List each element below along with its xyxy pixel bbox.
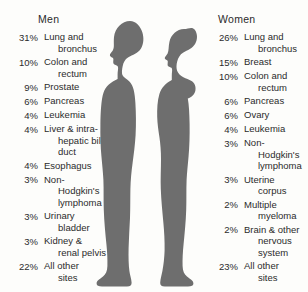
stat-site-line: Prostate: [44, 81, 79, 92]
stat-site-label: Ovary: [238, 109, 308, 121]
stat-percent: 15%: [206, 56, 238, 68]
stat-percent: 22%: [2, 260, 38, 272]
stat-site-label: Breast: [238, 56, 308, 68]
stat-site-line: Uterine: [244, 174, 275, 185]
stat-site-line: Urinary: [44, 210, 75, 221]
stat-site-line: Multiple: [244, 199, 277, 210]
stat-site-label: Non-Hodgkin'slymphoma: [238, 137, 308, 172]
stat-percent: 3%: [2, 174, 38, 186]
stat-row: 26%Lung andbronchus: [206, 31, 308, 54]
stat-row: 2%Multiplemyeloma: [206, 199, 308, 222]
stat-percent: 6%: [206, 95, 238, 107]
stat-site-line: myeloma: [244, 210, 308, 222]
stat-site-line: Leukemia: [44, 109, 85, 120]
stat-site-line: nervous: [244, 235, 308, 247]
stat-site-line: Kidney &: [44, 235, 82, 246]
stat-percent: 2%: [206, 199, 238, 211]
stat-site-label: Leukemia: [238, 123, 308, 135]
stat-percent: 10%: [206, 70, 238, 82]
male-silhouette: [97, 21, 144, 286]
stat-row: 23%All othersites: [206, 260, 308, 283]
stat-site-label: Multiplemyeloma: [238, 199, 308, 222]
stat-percent: 2%: [206, 224, 238, 236]
stat-row: 4%Leukemia: [206, 123, 308, 135]
stat-percent: 4%: [2, 160, 38, 172]
stat-site-line: Esophagus: [44, 160, 92, 171]
stat-percent: 3%: [2, 235, 38, 247]
stat-percent: 4%: [2, 123, 38, 135]
stat-percent: 9%: [2, 81, 38, 93]
stat-percent: 3%: [206, 174, 238, 186]
stat-percent: 4%: [2, 109, 38, 121]
stat-row: 10%Colon andrectum: [206, 70, 308, 93]
stat-site-label: Colon andrectum: [238, 70, 308, 93]
stat-site-line: Liver & intra-: [44, 123, 98, 134]
stats-list-women: 26%Lung andbronchus15%Breast10%Colon and…: [206, 31, 308, 285]
stat-site-line: Colon and: [44, 56, 87, 67]
stat-site-line: Non-: [244, 137, 265, 148]
silhouettes-svg: [96, 0, 208, 292]
stat-site-line: Breast: [244, 56, 271, 67]
stat-site-label: Pancreas: [238, 95, 308, 107]
stat-site-line: Colon and: [244, 70, 287, 81]
stat-row: 6%Pancreas: [206, 95, 308, 107]
stat-site-line: rectum: [244, 82, 308, 94]
stat-site-label: Uterinecorpus: [238, 174, 308, 197]
stat-row: 3%Uterinecorpus: [206, 174, 308, 197]
stat-site-line: Brain & other: [244, 224, 299, 235]
stat-site-line: Pancreas: [44, 95, 84, 106]
stat-site-line: Hodgkin's: [244, 149, 308, 161]
column-heading-women: Women: [218, 13, 256, 25]
stat-site-line: lymphoma: [244, 160, 308, 172]
stat-site-line: All other: [44, 260, 79, 271]
stat-site-line: Leukemia: [244, 123, 285, 134]
stat-row: 15%Breast: [206, 56, 308, 68]
stat-site-label: Brain & othernervoussystem: [238, 224, 308, 259]
stat-site-label: All othersites: [238, 260, 308, 283]
stat-site-line: sites: [244, 272, 308, 284]
stat-site-line: bronchus: [244, 43, 308, 55]
stat-site-line: Lung and: [44, 31, 84, 42]
stat-percent: 3%: [2, 210, 38, 222]
female-silhouette: [157, 28, 197, 286]
stat-percent: 6%: [206, 109, 238, 121]
stat-percent: 23%: [206, 260, 238, 272]
stat-percent: 4%: [206, 123, 238, 135]
stat-percent: 3%: [206, 137, 238, 149]
silhouette-figures: [96, 0, 208, 292]
stat-row: 6%Ovary: [206, 109, 308, 121]
stat-site-line: Non-: [44, 174, 65, 185]
stat-site-label: Lung andbronchus: [238, 31, 308, 54]
column-heading-men: Men: [38, 13, 59, 25]
stat-site-line: All other: [244, 260, 279, 271]
stat-percent: 31%: [2, 31, 38, 43]
stat-percent: 6%: [2, 95, 38, 107]
stat-row: 3%Non-Hodgkin'slymphoma: [206, 137, 308, 172]
stat-site-line: Ovary: [244, 109, 269, 120]
stat-site-line: system: [244, 247, 308, 259]
stat-site-line: Pancreas: [244, 95, 284, 106]
stat-row: 2%Brain & othernervoussystem: [206, 224, 308, 259]
cancer-statistics-infographic: Men Women 31%Lung andbronchus10%Colon an…: [0, 0, 308, 292]
stat-percent: 26%: [206, 31, 238, 43]
stat-percent: 10%: [2, 56, 38, 68]
stat-site-line: Lung and: [244, 31, 284, 42]
stat-site-line: corpus: [244, 185, 308, 197]
